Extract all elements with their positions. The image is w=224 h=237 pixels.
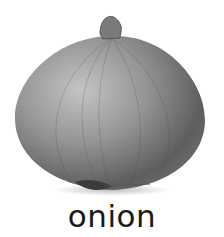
onion-bulb: [15, 36, 205, 190]
caption-label: onion: [0, 199, 224, 233]
onion-photo: [0, 0, 224, 200]
onion-stem: [100, 16, 121, 39]
